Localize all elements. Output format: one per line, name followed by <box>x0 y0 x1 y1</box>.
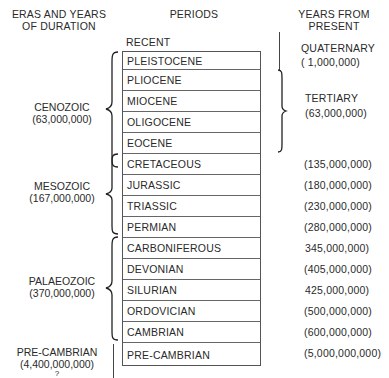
year-value: 425,000,000) <box>305 284 369 296</box>
years-header-line2: PRESENT <box>284 20 384 32</box>
period-row: SILURIAN <box>123 279 260 300</box>
period-row: CARBONIFEROUS <box>123 237 260 258</box>
eras-header-line1: ERAS AND YEARS <box>4 8 114 20</box>
year-value: (5,000,000,000) <box>304 347 381 359</box>
quaternary-line <box>279 32 280 70</box>
year-value: (405,000,000) <box>304 263 372 275</box>
era-mesozoic: MESOZOIC (167,000,000) <box>20 180 104 204</box>
period-row: PRE-CAMBRIAN <box>123 342 260 366</box>
subdivision-name: TERTIARY <box>305 92 367 104</box>
period-row: PLEISTOCENE <box>123 52 260 69</box>
period-row: CAMBRIAN <box>123 321 260 342</box>
year-value: (135,000,000) <box>304 158 372 170</box>
period-row: OLIGOCENE <box>123 111 260 132</box>
era-name: MESOZOIC <box>20 180 104 192</box>
period-row: TRIASSIC <box>123 195 260 216</box>
era-name: PRE-CAMBRIAN <box>2 346 112 358</box>
subdivision-years: (63,000,000) <box>305 107 367 119</box>
period-row: JURASSIC <box>123 174 260 195</box>
year-value: (500,000,000) <box>304 305 372 317</box>
precambrian-line <box>113 344 114 378</box>
periods-header: PERIODS <box>154 8 234 20</box>
tertiary-label: TERTIARY (63,000,000) <box>305 92 367 119</box>
era-duration: (63,000,000) <box>20 113 104 125</box>
era-name: CENOZOIC <box>20 101 104 113</box>
period-row: MIOCENE <box>123 90 260 111</box>
year-value: (600,000,000) <box>304 326 372 338</box>
tertiary-brace-icon <box>276 68 288 154</box>
era-duration: (167,000,000) <box>20 192 104 204</box>
period-row: ORDOVICIAN <box>123 300 260 321</box>
years-header-line1: YEARS FROM <box>284 8 384 20</box>
quaternary-label: QUATERNARY ( 1,000,000) <box>301 42 375 68</box>
subdivision-years: ( 1,000,000) <box>301 56 375 68</box>
palaeozoic-brace-icon <box>104 235 120 343</box>
mesozoic-brace-icon <box>104 152 120 236</box>
period-row: PERMIAN <box>123 216 260 237</box>
years-header: YEARS FROM PRESENT <box>284 8 384 32</box>
period-row: EOCENE <box>123 132 260 153</box>
subdivision-name: QUATERNARY <box>301 42 375 54</box>
era-duration: (370,000,000) <box>20 287 104 299</box>
era-cenozoic: CENOZOIC (63,000,000) <box>20 101 104 125</box>
era-note: ? <box>2 370 112 378</box>
eras-header: ERAS AND YEARS OF DURATION <box>4 8 114 32</box>
era-name: PALAEOZOIC <box>20 275 104 287</box>
period-row: CRETACEOUS <box>123 153 260 174</box>
year-value: (230,000,000) <box>304 200 372 212</box>
periods-table: PLEISTOCENE PLIOCENE MIOCENE OLIGOCENE E… <box>122 51 261 366</box>
year-value: (280,000,000) <box>304 221 372 233</box>
recent-label: RECENT <box>126 36 170 48</box>
period-row: PLIOCENE <box>123 69 260 90</box>
era-palaeozoic: PALAEOZOIC (370,000,000) <box>20 275 104 299</box>
eras-header-line2: OF DURATION <box>4 20 114 32</box>
period-row: DEVONIAN <box>123 258 260 279</box>
year-value: 345,000,000) <box>305 242 369 254</box>
year-value: (180,000,000) <box>304 179 372 191</box>
era-precambrian: PRE-CAMBRIAN (4,400,000,000) ? <box>2 346 112 378</box>
